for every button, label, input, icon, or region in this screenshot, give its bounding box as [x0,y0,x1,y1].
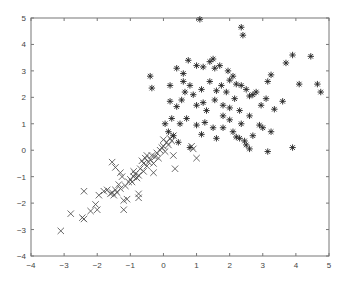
star-marker-icon [289,52,295,58]
star-marker-icon [226,77,232,83]
star-marker-icon [180,70,186,76]
x-tick-label: 2 [227,261,232,270]
axis-ticks [31,18,329,256]
star-marker-icon [268,129,274,135]
star-marker-icon [198,86,204,92]
star-marker-icon [240,32,246,38]
star-marker-icon [238,82,244,88]
star-marker-icon [213,88,219,94]
x-tick-label: 0 [161,261,166,270]
x-marker-icon [162,148,168,154]
x-marker-icon [81,188,87,194]
star-marker-icon [185,57,191,63]
x-tick-label: 5 [327,261,332,270]
x-marker-icon [150,170,156,176]
star-marker-icon [173,103,179,109]
star-marker-icon [271,106,277,112]
x-tick-label: −4 [26,261,36,270]
star-marker-icon [223,89,229,95]
star-marker-icon [265,148,271,154]
star-marker-icon [210,125,216,131]
star-marker-icon [318,89,324,95]
star-marker-icon [231,95,237,101]
star-marker-icon [230,129,236,135]
star-marker-icon [230,73,236,79]
x-tick-label: 3 [261,261,266,270]
star-marker-icon [149,85,155,91]
y-tick-label: −2 [17,199,27,208]
star-marker-icon [225,68,231,74]
star-marker-icon [182,89,188,95]
star-marker-icon [263,95,269,101]
y-tick-label: 5 [22,14,27,23]
star-marker-icon [220,125,226,131]
star-marker-icon [220,113,226,119]
star-marker-icon [212,97,218,103]
axes-frame [31,18,329,256]
star-marker-icon [165,129,171,135]
star-marker-icon [200,64,206,70]
star-marker-icon [203,107,209,113]
star-marker-icon [233,81,239,87]
star-marker-icon [296,81,302,87]
series-class-x [58,132,200,234]
star-marker-icon [202,119,208,125]
y-axis-tick-labels: −4−3−2−1012345 [17,14,27,261]
star-marker-icon [265,78,271,84]
x-tick-label: 4 [294,261,299,270]
star-marker-icon [167,82,173,88]
star-marker-icon [213,135,219,141]
x-marker-icon [169,138,175,144]
x-marker-icon [160,136,166,142]
star-marker-icon [193,62,199,68]
x-tick-label: −1 [126,261,136,270]
star-marker-icon [180,78,186,84]
star-marker-icon [187,82,193,88]
x-marker-icon [92,201,98,207]
star-marker-icon [218,82,224,88]
star-marker-icon [268,72,274,78]
x-marker-icon [58,228,64,234]
star-marker-icon [198,131,204,137]
x-marker-icon [130,168,136,174]
y-tick-label: −1 [17,173,27,182]
star-marker-icon [210,56,216,62]
star-marker-icon [169,115,175,121]
x-marker-icon [96,192,102,198]
star-marker-icon [147,73,153,79]
star-marker-icon [193,122,199,128]
x-marker-icon [87,208,93,214]
star-marker-icon [236,107,242,113]
x-marker-icon [135,195,141,201]
star-marker-icon [183,115,189,121]
star-marker-icon [253,89,259,95]
star-marker-icon [283,60,289,66]
x-marker-icon [144,152,150,158]
star-marker-icon [243,86,249,92]
x-marker-icon [68,210,74,216]
star-marker-icon [258,102,264,108]
x-marker-icon [94,207,100,213]
star-marker-icon [250,132,256,138]
star-marker-icon [162,121,168,127]
x-marker-icon [170,152,176,158]
star-marker-icon [308,53,314,59]
star-marker-icon [226,117,232,123]
star-marker-icon [207,78,213,84]
star-marker-icon [197,16,203,22]
x-marker-icon [121,207,127,213]
y-tick-label: 0 [22,146,27,155]
x-marker-icon [160,143,166,149]
star-marker-icon [243,142,249,148]
star-marker-icon [289,144,295,150]
star-marker-icon [193,102,199,108]
y-tick-label: 4 [22,40,27,49]
star-marker-icon [178,97,184,103]
y-tick-label: 1 [22,120,27,129]
star-marker-icon [217,62,223,68]
star-marker-icon [187,144,193,150]
star-marker-icon [226,105,232,111]
x-marker-icon [172,166,178,172]
y-tick-label: 3 [22,67,27,76]
x-marker-icon [129,179,135,185]
